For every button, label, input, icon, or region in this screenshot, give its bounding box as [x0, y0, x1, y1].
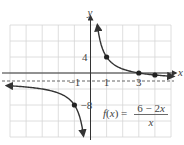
y-axis-label: y: [87, 6, 93, 18]
equation-lhs: f(x) =: [103, 107, 127, 120]
curve-left-branch: [7, 86, 84, 136]
x-axis-label: x: [177, 66, 183, 78]
data-point: [72, 102, 77, 107]
y-tick-label: 4: [82, 51, 88, 63]
x-tick-label: −1: [69, 76, 81, 88]
data-point: [104, 54, 109, 59]
function-graph: x y −1134−8 f(x) = 6 − 2x x: [0, 0, 184, 145]
equation-numerator: 6 − 2x: [137, 102, 165, 114]
function-equation: f(x) = 6 − 2x x: [103, 102, 168, 128]
y-tick-label: −8: [81, 99, 93, 111]
equation-denominator: x: [148, 116, 154, 128]
tick-labels: −1134−8: [69, 51, 143, 111]
data-point: [152, 72, 157, 77]
x-tick-label: 1: [104, 76, 110, 88]
x-tick-label: 3: [136, 76, 142, 88]
data-point: [136, 70, 141, 75]
curve-right-branch: [97, 25, 173, 76]
